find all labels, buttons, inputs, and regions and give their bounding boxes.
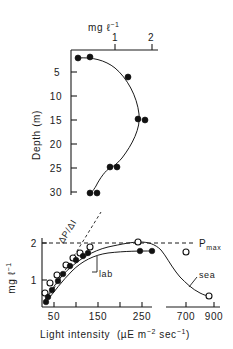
- top-panel-ytick-label-30: 30: [50, 187, 62, 198]
- data-point: [67, 263, 73, 269]
- depth-profile-points: [75, 54, 148, 196]
- data-point: [87, 190, 93, 196]
- data-point: [45, 294, 51, 300]
- bottom-panel-y-axis-label: mg ℓ−1: [5, 262, 17, 294]
- scientific-figure: mg ℓ−1 1 2 5 10 15 20 25 30 Depth (m): [0, 0, 233, 349]
- bottom-panel-xtick-label-50: 50: [48, 311, 60, 322]
- slope-label: ΔP/ΔI: [56, 218, 78, 245]
- data-point: [75, 55, 81, 61]
- top-panel-ytick-label-25: 25: [50, 163, 62, 174]
- data-point: [60, 271, 66, 277]
- bottom-panel-xtick-label-700: 700: [177, 311, 196, 322]
- bottom-panel-ytick-label-2: 2: [31, 238, 37, 249]
- data-point: [87, 244, 93, 250]
- data-point: [49, 287, 55, 293]
- data-point: [54, 272, 60, 278]
- data-point: [55, 278, 61, 284]
- bottom-panel-xtick-label-150: 150: [89, 311, 108, 322]
- data-point: [137, 248, 143, 254]
- data-point: [87, 54, 93, 60]
- top-panel-ytick-label-10: 10: [50, 91, 62, 102]
- bottom-panel-pi-curve: 2 1 mg ℓ−1 50 150 250 700 900 Light inte…: [5, 212, 223, 340]
- sea-data-points: [42, 239, 212, 299]
- data-point: [47, 280, 53, 286]
- data-point: [142, 117, 148, 123]
- bottom-panel-xtick-label-250: 250: [133, 311, 152, 322]
- top-panel-ytick-label-20: 20: [50, 139, 62, 150]
- pmax-label: Pmax: [199, 238, 221, 251]
- bottom-panel-ytick-label-1: 1: [31, 275, 37, 286]
- data-point: [80, 253, 86, 259]
- top-panel-ytick-label-5: 5: [54, 67, 60, 78]
- data-point: [73, 257, 79, 263]
- top-panel-y-axis-label: Depth (m): [31, 110, 42, 160]
- data-point: [94, 190, 100, 196]
- data-point: [206, 293, 212, 299]
- sea-label: sea: [199, 270, 215, 280]
- bottom-panel-xtick-label-900: 900: [205, 311, 224, 322]
- data-point: [135, 116, 141, 122]
- top-panel-ytick-label-15: 15: [50, 115, 62, 126]
- data-point: [114, 164, 120, 170]
- data-point: [149, 248, 155, 254]
- top-panel-xtick-label-1: 1: [112, 32, 118, 43]
- data-point: [107, 164, 113, 170]
- lab-label: lab: [99, 269, 113, 279]
- data-point: [135, 239, 141, 245]
- bottom-panel-x-axis-label: Light intensity (µE m−2 sec−1): [40, 328, 190, 340]
- data-point: [183, 249, 189, 255]
- sea-leader-line: [189, 277, 197, 287]
- top-panel-depth-profile: mg ℓ−1 1 2 5 10 15 20 25 30 Depth (m): [31, 21, 158, 198]
- data-point: [85, 250, 91, 256]
- data-point: [125, 74, 131, 80]
- top-panel-xtick-label-2: 2: [148, 32, 154, 43]
